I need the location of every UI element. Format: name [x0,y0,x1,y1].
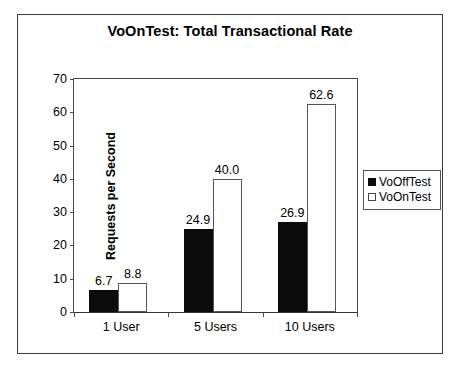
bar-value-label: 24.9 [186,214,210,227]
bar-voontest-10-users [307,104,336,312]
y-axis-tick-label: 40 [33,172,74,186]
y-axis-tick-mark [70,112,74,113]
chart-figure: VoOnTest: Total Transactional Rate Reque… [0,0,460,370]
x-axis-tick-mark [263,312,264,317]
y-axis-tick-label: 70 [33,72,74,86]
x-axis-tick-label: 1 User [103,320,140,334]
x-axis-tick-mark [74,312,75,317]
y-axis-tick-mark [70,146,74,147]
legend-swatch-black-square-icon [368,178,376,186]
x-axis-tick-label: 10 Users [285,320,335,334]
y-axis-tick-mark [70,279,74,280]
bar-voontest-5-users [213,179,242,312]
y-axis-tick-label: 20 [33,238,74,252]
bar-voofftest-5-users [184,229,213,312]
y-axis-tick-label: 10 [33,272,74,286]
chart-title: VoOnTest: Total Transactional Rate [17,23,443,39]
legend-item-vooff: VoOffTest [368,175,436,189]
y-axis-tick-mark [70,179,74,180]
legend-swatch-white-square-icon [368,193,376,201]
y-axis-tick-mark [70,79,74,80]
y-axis-tick-label: 30 [33,205,74,219]
x-axis-tick-label: 5 Users [194,320,237,334]
y-axis-tick-mark [70,245,74,246]
y-axis-title: Requests per Second [104,132,118,260]
bar-voofftest-1-user [89,290,118,312]
bar-voofftest-10-users [278,222,307,312]
chart-legend: VoOffTest VoOnTest [363,170,441,210]
x-axis-tick-mark [357,312,358,317]
bar-value-label: 26.9 [280,207,304,220]
bar-value-label: 6.7 [95,275,112,288]
y-axis-tick-label: 60 [33,105,74,119]
legend-item-voon: VoOnTest [368,190,436,204]
legend-label-voon: VoOnTest [379,190,431,204]
plot-area: Requests per Second 0102030405060706.78.… [73,78,358,313]
bar-voontest-1-user [118,283,147,312]
y-axis-tick-label: 0 [33,305,74,319]
x-axis-tick-mark [168,312,169,317]
y-axis-tick-mark [70,212,74,213]
bar-value-label: 62.6 [309,89,333,102]
legend-label-vooff: VoOffTest [379,175,431,189]
bar-value-label: 40.0 [215,164,239,177]
bar-value-label: 8.8 [124,268,141,281]
y-axis-tick-label: 50 [33,139,74,153]
